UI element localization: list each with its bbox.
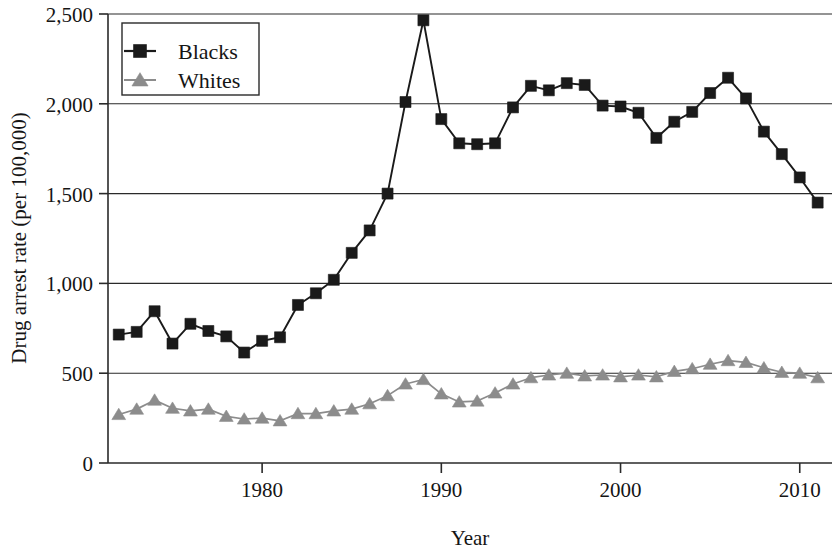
y-tick-label-2500: 2,500 — [46, 3, 93, 27]
data-point-blacks-1985 — [346, 247, 357, 258]
data-point-blacks-1979 — [239, 347, 250, 358]
data-point-blacks-2004 — [687, 106, 698, 117]
chart-canvas: 05001,0001,5002,0002,500 198019902000201… — [0, 0, 838, 556]
data-point-whites-2001 — [632, 369, 646, 380]
data-point-blacks-1998 — [579, 79, 590, 90]
data-point-whites-1986 — [363, 397, 377, 408]
data-point-blacks-1992 — [472, 139, 483, 150]
y-tick-label-2000: 2,000 — [46, 93, 93, 117]
data-point-blacks-1974 — [149, 306, 160, 317]
data-point-blacks-2006 — [723, 72, 734, 83]
data-point-blacks-2003 — [669, 116, 680, 127]
y-tick-label-0: 0 — [83, 452, 94, 476]
data-point-blacks-2002 — [651, 132, 662, 143]
data-point-whites-1978 — [219, 410, 233, 421]
data-point-blacks-1991 — [454, 138, 465, 149]
x-tick-labels-group: 1980199020002010 — [241, 478, 821, 502]
data-point-blacks-1984 — [328, 274, 339, 285]
data-point-blacks-1973 — [131, 326, 142, 337]
x-tick-label-2010: 2010 — [779, 478, 821, 502]
data-point-blacks-2005 — [705, 88, 716, 99]
data-point-blacks-1976 — [185, 318, 196, 329]
data-point-blacks-1972 — [113, 329, 124, 340]
data-point-blacks-1986 — [364, 225, 375, 236]
y-axis-title: Drug arrest rate (per 100,000) — [7, 112, 31, 363]
x-axis-title: Year — [451, 526, 490, 550]
data-point-blacks-1994 — [508, 102, 519, 113]
data-point-whites-1974 — [148, 394, 162, 405]
data-point-blacks-2008 — [758, 126, 769, 137]
data-point-whites-1997 — [560, 367, 574, 378]
data-point-blacks-1982 — [292, 299, 303, 310]
data-point-blacks-2007 — [740, 93, 751, 104]
data-point-blacks-2001 — [633, 107, 644, 118]
data-point-blacks-1990 — [436, 114, 447, 125]
data-point-blacks-2010 — [794, 172, 805, 183]
data-point-whites-1987 — [381, 389, 395, 400]
data-point-blacks-1983 — [310, 288, 321, 299]
data-point-blacks-1999 — [597, 100, 608, 111]
x-tick-label-1980: 1980 — [241, 478, 283, 502]
data-point-whites-1994 — [506, 378, 520, 389]
data-point-blacks-1989 — [418, 15, 429, 26]
data-point-blacks-1993 — [490, 138, 501, 149]
data-point-whites-1989 — [417, 373, 431, 384]
data-point-blacks-1977 — [203, 325, 214, 336]
x-tick-label-2000: 2000 — [600, 478, 642, 502]
data-point-blacks-1975 — [167, 338, 178, 349]
data-point-blacks-1996 — [543, 85, 554, 96]
data-point-blacks-2000 — [615, 101, 626, 112]
data-point-blacks-1997 — [561, 78, 572, 89]
legend-label-blacks: Blacks — [178, 39, 238, 64]
data-point-blacks-1987 — [382, 188, 393, 199]
data-point-blacks-1978 — [221, 331, 232, 342]
drug-arrest-rate-chart-figure: 05001,0001,5002,0002,500 198019902000201… — [0, 0, 838, 556]
data-point-whites-1993 — [488, 387, 502, 398]
y-tick-labels-group: 05001,0001,5002,0002,500 — [46, 3, 93, 476]
series-whites — [112, 354, 825, 426]
legend-label-whites: Whites — [178, 68, 240, 93]
data-point-blacks-1981 — [275, 332, 286, 343]
x-tick-label-1990: 1990 — [420, 478, 462, 502]
data-point-blacks-2009 — [776, 149, 787, 160]
data-point-whites-1975 — [166, 402, 180, 413]
data-point-whites-2006 — [721, 354, 735, 365]
y-tick-label-1500: 1,500 — [46, 183, 93, 207]
data-point-whites-1973 — [130, 403, 144, 414]
chart-legend: BlacksWhites — [122, 23, 259, 95]
legend-marker-square-icon — [134, 45, 147, 58]
data-point-blacks-1980 — [257, 335, 268, 346]
data-point-blacks-1995 — [525, 80, 536, 91]
data-point-blacks-2011 — [812, 197, 823, 208]
y-tick-label-1000: 1,000 — [46, 272, 93, 296]
series-line-whites — [119, 361, 818, 421]
data-point-blacks-1988 — [400, 97, 411, 108]
y-tick-label-500: 500 — [62, 362, 94, 386]
data-point-whites-1977 — [201, 403, 215, 414]
